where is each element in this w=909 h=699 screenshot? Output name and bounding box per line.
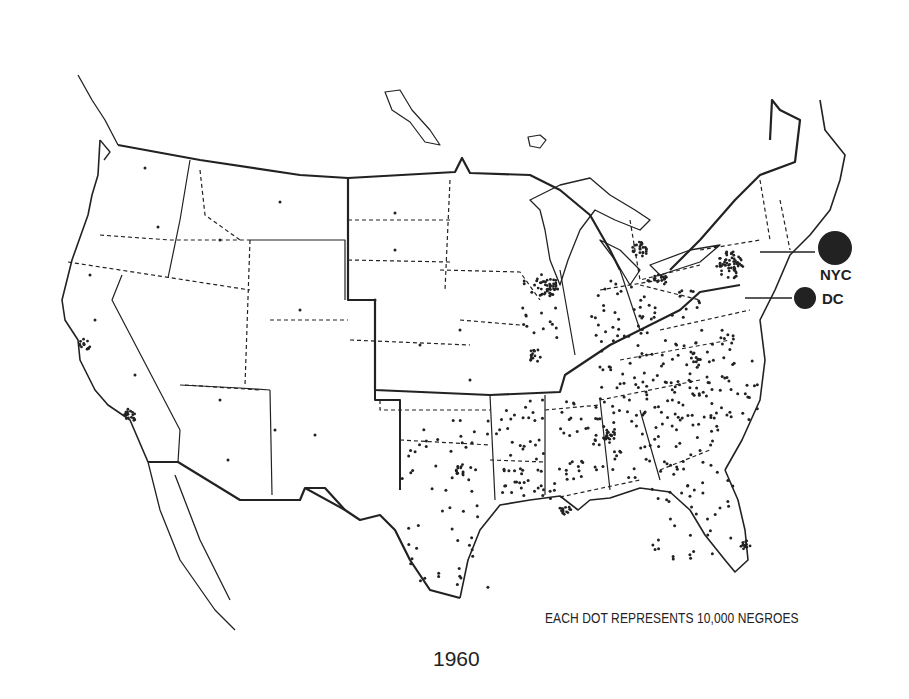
nyc-cluster — [818, 231, 852, 265]
mexico-border — [148, 462, 460, 598]
canada-border — [118, 145, 620, 270]
legend-caption: EACH DOT REPRESENTS 10,000 NEGROES — [545, 610, 799, 626]
dot-density-map — [0, 0, 909, 699]
dc-label: DC — [822, 290, 844, 307]
great-lakes — [530, 178, 650, 285]
dc-cluster — [794, 287, 816, 309]
map-title-year: 1960 — [433, 647, 480, 671]
gulf-coast — [460, 470, 748, 598]
nyc-label: NYC — [820, 266, 852, 283]
region-divider — [348, 178, 740, 395]
